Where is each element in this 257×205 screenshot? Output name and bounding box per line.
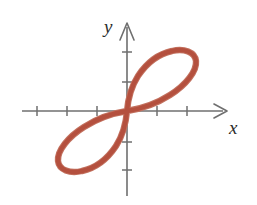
x-axis-label: x (229, 118, 237, 137)
y-axis-label: y (104, 17, 112, 36)
plot-canvas (0, 0, 257, 205)
curve-figure: y x (0, 0, 257, 205)
